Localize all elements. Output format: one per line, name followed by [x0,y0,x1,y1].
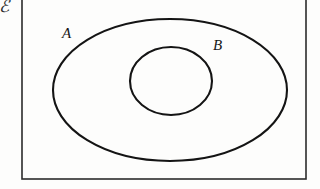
set-b-ellipse [130,47,212,115]
diagram-canvas [0,0,320,189]
set-b-label: B [213,38,222,53]
set-a-ellipse [53,19,287,161]
set-a-label: A [62,26,71,41]
euler-diagram-figure: ℰ A B [0,0,320,189]
universal-set-label: ℰ [0,0,9,15]
